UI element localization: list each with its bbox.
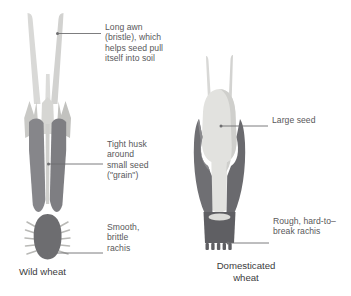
leader-long-awn bbox=[56, 32, 101, 35]
wild-wheat-awns bbox=[28, 13, 64, 108]
annotation-tight-husk: Tight husk around small seed ("grain") bbox=[107, 139, 185, 181]
husk-left-lobe bbox=[29, 119, 45, 213]
rachis-top-scar bbox=[209, 213, 231, 220]
annotation-long-awn: Long awn (bristle), which helps seed pul… bbox=[105, 22, 190, 64]
caption-domesticated-wheat: Domesticated wheat bbox=[196, 260, 296, 283]
annotation-large-seed: Large seed bbox=[272, 115, 348, 125]
domesticated-wheat-plant bbox=[194, 55, 245, 250]
wild-wheat-husk bbox=[29, 119, 66, 213]
figure-canvas: Long awn (bristle), which helps seed pul… bbox=[0, 0, 351, 296]
husk-right-lobe bbox=[50, 119, 66, 213]
annotation-smooth-brittle-rachis: Smooth, brittle rachis bbox=[107, 222, 177, 253]
caption-wild-wheat: Wild wheat bbox=[19, 266, 129, 278]
awn-left bbox=[28, 13, 41, 104]
wild-wheat-plant bbox=[24, 13, 71, 260]
domesticated-wheat-rachis-base bbox=[204, 212, 236, 250]
annotation-rough-rachis: Rough, hard-to– break rachis bbox=[273, 216, 351, 237]
awn-right bbox=[51, 13, 64, 104]
